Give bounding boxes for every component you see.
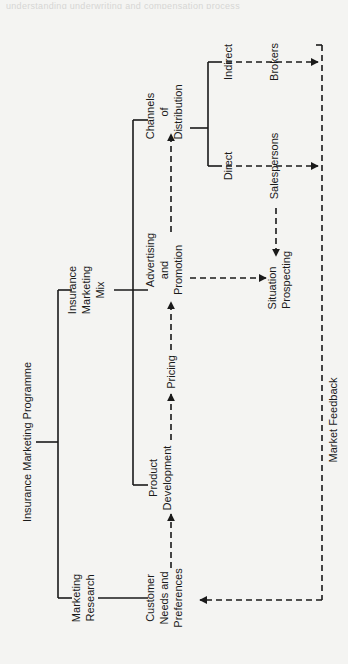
svg-text:of: of	[158, 106, 170, 116]
advertising-label: Advertising and Promotion	[144, 233, 184, 295]
svg-text:Mix: Mix	[94, 281, 106, 299]
marketing-mix-label: Insurance Marketing Mix	[66, 266, 106, 314]
svg-text:Needs and: Needs and	[158, 571, 170, 624]
direct-label: Direct	[222, 152, 234, 181]
situation-prospecting-label: Situation Prospecting	[266, 251, 292, 309]
salespersons-label: Salespersons	[268, 132, 280, 199]
svg-text:Promotion: Promotion	[172, 245, 184, 295]
svg-text:Insurance: Insurance	[66, 266, 78, 314]
diagram-page: understanding underwriting and compensat…	[0, 0, 348, 664]
svg-text:Customer: Customer	[144, 574, 156, 622]
svg-text:Prospecting: Prospecting	[280, 251, 292, 309]
product-development-label: Product Development	[147, 446, 173, 511]
svg-text:Product: Product	[147, 459, 159, 497]
market-feedback-label: Market Feedback	[327, 377, 339, 462]
svg-text:Situation: Situation	[266, 267, 278, 310]
svg-text:Distribution: Distribution	[172, 84, 184, 139]
svg-text:and: and	[158, 261, 170, 279]
root-label: Insurance Marketing Programme	[21, 362, 33, 522]
customer-needs-label: Customer Needs and Preferences	[144, 568, 184, 628]
marketing-programme-diagram: Insurance Marketing Programme Insurance …	[0, 0, 348, 664]
svg-text:Channels: Channels	[144, 92, 156, 139]
svg-text:Marketing: Marketing	[80, 266, 92, 314]
brokers-label: Brokers	[268, 43, 280, 81]
svg-text:Preferences: Preferences	[172, 568, 184, 628]
svg-text:Advertising: Advertising	[144, 233, 156, 287]
marketing-research-label: Marketing Research	[70, 574, 96, 622]
svg-text:Development: Development	[161, 446, 173, 511]
indirect-label: Indirect	[222, 44, 234, 80]
svg-text:Research: Research	[84, 574, 96, 621]
channels-label: Channels of Distribution	[144, 84, 184, 139]
svg-text:Marketing: Marketing	[70, 574, 82, 622]
pricing-label: Pricing	[165, 355, 177, 389]
